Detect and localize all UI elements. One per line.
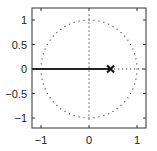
x-tick-label: 0 <box>86 134 92 146</box>
x-axis-ticks: −101 <box>35 8 140 146</box>
y-tick-label: 0 <box>21 63 27 75</box>
x-tick-label: −1 <box>35 134 48 146</box>
root-locus-plot: −101 10.50−0.5−1 <box>0 0 157 151</box>
real-axis-dotted <box>114 68 143 69</box>
y-tick-label: 0.5 <box>12 39 27 51</box>
y-tick-label: −1 <box>14 112 27 124</box>
x-tick-label: 1 <box>134 134 140 146</box>
y-tick-label: −0.5 <box>5 88 27 100</box>
y-tick-label: 1 <box>21 14 27 26</box>
imaginary-axis-dotted <box>88 15 89 120</box>
